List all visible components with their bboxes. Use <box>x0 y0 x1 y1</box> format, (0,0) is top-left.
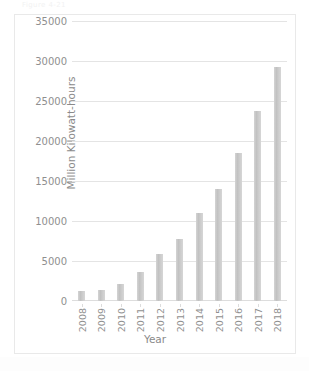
y-tick-label: 15000 <box>21 176 67 187</box>
scan-artifact-text: Figure 4-21 <box>22 1 66 9</box>
bar <box>196 213 203 301</box>
y-tick-label: 20000 <box>21 136 67 147</box>
x-tick-mark <box>160 304 161 307</box>
x-tick-label: 2015 <box>213 308 224 332</box>
bar <box>117 284 124 301</box>
bar-slot <box>111 21 131 301</box>
bar-slot <box>150 21 170 301</box>
y-tick-label: 0 <box>21 296 67 307</box>
x-tick-mark <box>101 304 102 307</box>
x-tick-label: 2011 <box>135 308 146 332</box>
x-tick-label: 2012 <box>154 308 165 332</box>
bar-slot <box>189 21 209 301</box>
bar-slot <box>72 21 92 301</box>
bar <box>235 153 242 301</box>
bar <box>137 272 144 301</box>
bar-slot <box>248 21 268 301</box>
x-tick-label: 2009 <box>96 308 107 332</box>
x-tick-label: 2017 <box>252 308 263 332</box>
x-axis-title: Year <box>15 333 295 345</box>
plot-area <box>72 21 287 301</box>
y-axis-tick-labels: 05000100001500020000250003000035000 <box>21 15 67 353</box>
x-tick-mark <box>140 304 141 307</box>
chart-frame: Million Kilowatt-hours 05000100001500020… <box>14 14 296 354</box>
bar-slot <box>131 21 151 301</box>
y-tick-label: 5000 <box>21 256 67 267</box>
x-tick-label: 2018 <box>272 308 283 332</box>
x-tick-label: 2016 <box>233 308 244 332</box>
x-tick-mark <box>277 304 278 307</box>
x-tick-label: 2014 <box>194 308 205 332</box>
bar-slot <box>228 21 248 301</box>
scan-edge-shading <box>0 357 309 371</box>
x-tick-mark <box>180 304 181 307</box>
bar <box>254 111 261 301</box>
bar-slot <box>267 21 287 301</box>
x-tick-mark <box>238 304 239 307</box>
x-tick-mark <box>121 304 122 307</box>
bar <box>274 67 281 301</box>
bar-slot <box>92 21 112 301</box>
x-tick-label: 2013 <box>174 308 185 332</box>
y-tick-label: 35000 <box>21 16 67 27</box>
bar <box>176 239 183 301</box>
y-tick-label: 30000 <box>21 56 67 67</box>
x-tick-mark <box>219 304 220 307</box>
bar-series <box>72 21 287 301</box>
x-tick-label: 2008 <box>76 308 87 332</box>
y-tick-label: 25000 <box>21 96 67 107</box>
bar <box>215 189 222 301</box>
x-tick-mark <box>82 304 83 307</box>
bar <box>156 254 163 301</box>
x-tick-mark <box>258 304 259 307</box>
x-tick-label: 2010 <box>115 308 126 332</box>
x-tick-mark <box>199 304 200 307</box>
bar-slot <box>209 21 229 301</box>
y-tick-label: 10000 <box>21 216 67 227</box>
bar-slot <box>170 21 190 301</box>
bar <box>98 290 105 301</box>
bar <box>78 291 85 301</box>
